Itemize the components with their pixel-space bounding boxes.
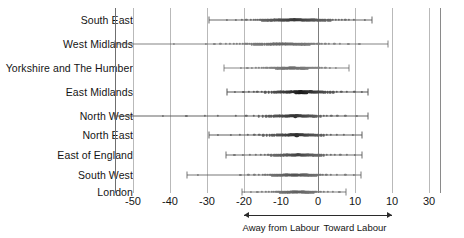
- data-point: [246, 67, 248, 69]
- data-point: [224, 43, 226, 45]
- whisker-cap: [208, 17, 209, 24]
- x-tick-label: 10: [349, 195, 361, 207]
- data-point: [358, 43, 360, 45]
- data-point: [261, 191, 263, 193]
- annotation-label: Toward Labour: [324, 222, 387, 233]
- data-point: [335, 134, 337, 136]
- data-point: [334, 154, 336, 156]
- data-point: [329, 174, 331, 176]
- data-point: [343, 134, 345, 136]
- whisker-cap: [349, 65, 350, 72]
- right-axis-line: [440, 8, 441, 193]
- whisker-cap: [208, 132, 209, 139]
- whisker-cap: [345, 189, 346, 196]
- data-point: [321, 67, 323, 69]
- data-point: [232, 43, 234, 45]
- data-point: [219, 43, 221, 45]
- data-point: [230, 134, 232, 136]
- data-point: [256, 191, 258, 193]
- data-point: [329, 67, 331, 69]
- data-point: [323, 191, 325, 193]
- data-point: [262, 134, 265, 137]
- data-point: [335, 67, 337, 69]
- data-point: [333, 43, 335, 45]
- whisker-cap: [367, 89, 368, 96]
- x-tick-label: 0: [315, 195, 321, 207]
- data-point: [321, 43, 323, 45]
- data-point: [346, 91, 348, 93]
- data-point: [245, 19, 247, 21]
- gridline: [281, 8, 282, 193]
- whisker-cap: [223, 65, 224, 72]
- data-point: [258, 174, 260, 176]
- data-point: [251, 67, 253, 69]
- data-point: [241, 19, 243, 21]
- data-point: [262, 115, 265, 118]
- data-point: [346, 154, 348, 156]
- x-tick-label: -20: [236, 195, 252, 207]
- data-point: [265, 191, 267, 193]
- arrow-shaft: [318, 215, 392, 216]
- gridline: [355, 8, 356, 193]
- data-point: [339, 43, 341, 45]
- whisker-cap: [362, 152, 363, 159]
- data-point: [240, 67, 242, 69]
- data-point: [352, 134, 354, 136]
- data-point: [213, 43, 215, 45]
- data-point: [250, 191, 252, 193]
- arrow-shaft: [244, 215, 318, 216]
- data-point: [249, 154, 251, 156]
- data-point: [332, 91, 335, 94]
- regional-swing-dot-plot: South EastWest MidlandsYorkshire and The…: [0, 0, 464, 238]
- whisker-cap: [362, 132, 363, 139]
- data-point: [247, 134, 249, 136]
- arrow-right-icon: [318, 210, 392, 220]
- data-point: [324, 43, 326, 45]
- data-point: [335, 174, 337, 176]
- data-point: [324, 67, 326, 69]
- data-point: [348, 19, 350, 21]
- gridline: [207, 8, 208, 193]
- x-tick-label: -50: [125, 195, 141, 207]
- x-tick-label: -40: [162, 195, 178, 207]
- data-point: [217, 134, 219, 136]
- data-point: [234, 91, 236, 93]
- data-point: [332, 191, 334, 193]
- data-point: [347, 43, 349, 45]
- data-point: [344, 19, 346, 21]
- data-point: [344, 174, 346, 176]
- whisker-cap: [114, 41, 115, 48]
- whisker-cap: [371, 17, 372, 24]
- data-point: [255, 67, 257, 69]
- x-tick-label: -10: [273, 195, 289, 207]
- data-point: [339, 154, 341, 156]
- data-point: [226, 19, 228, 21]
- data-point: [248, 91, 250, 93]
- data-point: [338, 191, 340, 193]
- data-point: [229, 43, 231, 45]
- data-point: [322, 134, 325, 137]
- data-point: [326, 191, 328, 193]
- data-point: [197, 174, 199, 176]
- data-point: [239, 174, 241, 176]
- data-point: [173, 43, 175, 45]
- data-point: [364, 19, 366, 21]
- data-point: [253, 174, 255, 176]
- data-point: [247, 174, 249, 176]
- data-point: [264, 91, 267, 94]
- data-point: [260, 154, 262, 156]
- data-point: [341, 19, 343, 21]
- annotation-label: Away from Labour: [243, 222, 320, 233]
- data-point: [258, 115, 261, 118]
- x-tick-label: 30: [423, 195, 435, 207]
- gridline: [244, 8, 245, 193]
- whisker-cap: [225, 152, 226, 159]
- gridline: [429, 8, 430, 193]
- left-axis-line: [115, 8, 116, 193]
- data-point: [336, 115, 338, 117]
- data-point: [361, 91, 363, 93]
- whisker-cap: [227, 89, 228, 96]
- x-tick-label: -30: [199, 195, 215, 207]
- data-point: [344, 115, 346, 117]
- arrow-head: [387, 212, 392, 218]
